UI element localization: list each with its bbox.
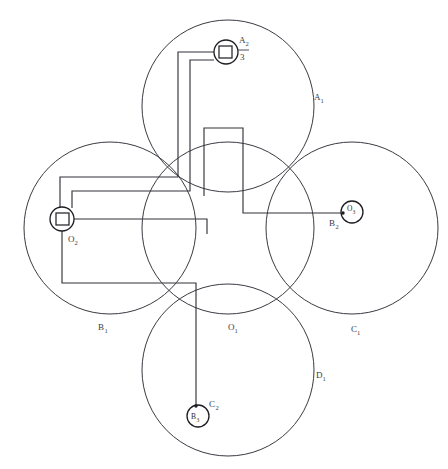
node-B3-terminal-dot xyxy=(194,404,197,407)
diagram-canvas: A 2 3 O 2 O 3 B 2 B 3 C 2 A 1 B 1 xyxy=(0,0,448,469)
label-C1-subscript: 1 xyxy=(357,329,360,336)
node-B2-label: B xyxy=(329,218,335,228)
label-B1-text: B xyxy=(98,322,104,332)
label-B1-subscript: 1 xyxy=(105,327,108,334)
label-A1-subscript: 1 xyxy=(321,97,324,104)
node-O3-terminal-dot xyxy=(341,211,344,214)
node-O2-subscript: 2 xyxy=(75,239,78,246)
circle-network-diagram: A 2 3 O 2 O 3 B 2 B 3 C 2 A 1 B 1 xyxy=(0,0,448,469)
node-O2-square xyxy=(56,213,69,225)
label-O1-subscript: 1 xyxy=(235,327,238,334)
node-B3-subscript: 3 xyxy=(197,417,200,423)
node-A2-subscript: 2 xyxy=(246,40,249,47)
node-A2-square xyxy=(219,46,232,58)
node-A2-denominator: 3 xyxy=(240,52,245,62)
node-C2-subscript: 2 xyxy=(216,404,219,411)
node-B2-subscript: 2 xyxy=(336,223,339,230)
node-O3-subscript: 3 xyxy=(353,209,356,215)
node-B3-label: B xyxy=(191,412,196,421)
node-C2-label: C xyxy=(209,399,215,409)
label-D1-subscript: 1 xyxy=(323,375,326,382)
